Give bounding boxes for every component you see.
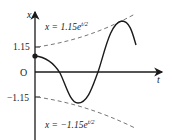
start-point [32,53,37,58]
y-axis-label: x [26,9,32,20]
oscillation-curve [35,21,136,103]
tick-pos-label: 1.15 [13,42,30,52]
upper-eq-main: x = 1.15e [44,22,81,32]
lower-eq-main: x = −1.15e [44,120,88,130]
x-axis-label: t [157,74,160,85]
lower-eq-exp: t/2 [88,118,96,125]
diagram: x t O 1.15 −1.15 x = 1.15et/2 x = −1.15e… [0,0,172,140]
tick-neg-label: −1.15 [7,93,29,103]
lower-equation: x = −1.15et/2 [44,118,95,130]
origin-label: O [20,67,27,78]
upper-equation: x = 1.15et/2 [44,20,89,32]
upper-eq-exp: t/2 [81,20,89,27]
